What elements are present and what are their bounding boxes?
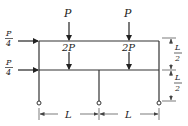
- svg-text:4: 4: [5, 68, 11, 77]
- load-label-mid-right: 2P: [121, 42, 135, 53]
- dim-label-span-left: L: [64, 109, 72, 120]
- pin-support-right: [157, 101, 161, 105]
- frame-diagram: P P 2P 2P P 4 P 4 L L L 2 L: [0, 0, 188, 126]
- dim-label-story-lower: L 2: [174, 73, 182, 93]
- pin-support-left: [37, 101, 41, 105]
- svg-text:P: P: [5, 29, 12, 38]
- svg-text:4: 4: [5, 39, 11, 48]
- pin-support-middle: [97, 101, 101, 105]
- dim-label-span-right: L: [124, 109, 132, 120]
- load-label-top-left: P: [63, 7, 72, 20]
- horizontal-load-label-mid: P 4: [5, 58, 13, 77]
- svg-text:P: P: [5, 58, 12, 67]
- horizontal-load-label-top: P 4: [5, 29, 13, 48]
- load-label-mid-left: 2P: [61, 42, 75, 53]
- svg-text:2: 2: [174, 84, 180, 93]
- svg-text:L: L: [174, 43, 180, 52]
- load-label-top-right: P: [123, 7, 132, 20]
- svg-text:2: 2: [174, 54, 180, 63]
- svg-text:L: L: [174, 73, 180, 82]
- dim-label-story-upper: L 2: [174, 43, 182, 63]
